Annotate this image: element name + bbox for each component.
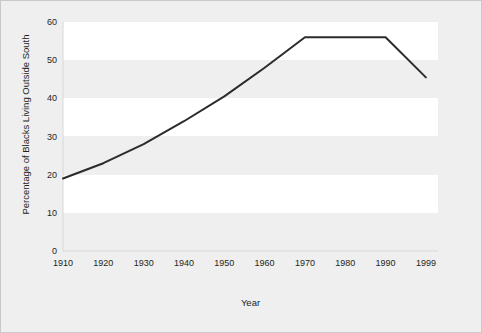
data-series-line: [63, 22, 438, 251]
chart-figure: 0102030405060 19101920193019401950196019…: [0, 0, 482, 333]
x-tick-label: 1999: [396, 258, 456, 268]
y-tick-label: 0: [13, 246, 57, 256]
x-axis-tick-labels: 1910192019301940195019601970198019901999: [63, 258, 438, 272]
plot-area: [63, 22, 438, 251]
y-axis-title: Percentage of Blacks Living Outside Sout…: [20, 15, 31, 235]
y-axis-tick-labels: 0102030405060: [9, 22, 57, 251]
x-axis-title: Year: [63, 297, 438, 308]
series-polyline: [63, 37, 426, 178]
